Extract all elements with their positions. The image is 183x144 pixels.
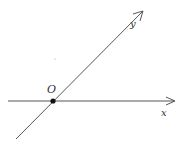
stray-dot xyxy=(55,59,56,60)
x-axis-label: x xyxy=(161,108,167,118)
origin-point xyxy=(50,98,55,103)
diagram-canvas xyxy=(0,0,183,144)
x-axis xyxy=(8,97,175,105)
y-axis-label: y xyxy=(130,19,136,29)
y-axis xyxy=(16,11,143,139)
origin-label: O xyxy=(47,84,56,95)
